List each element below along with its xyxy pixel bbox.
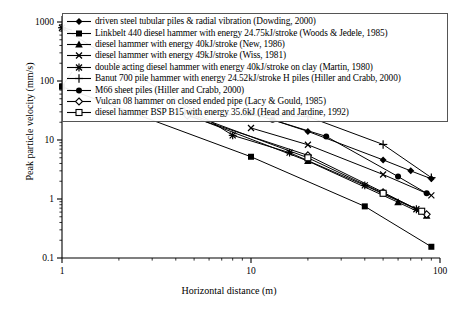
x-tick-label: 1: [60, 266, 65, 276]
legend-marker-star-icon: [65, 62, 95, 73]
legend-marker-plus-icon: [65, 73, 95, 84]
x-tick-label: 10: [246, 266, 256, 276]
legend-item: Banut 700 pile hammer with energy 24.52k…: [65, 73, 444, 84]
legend-marker-filled-diamond-icon: [65, 16, 95, 27]
legend-marker-filled-triangle-icon: [65, 39, 95, 50]
legend-item-label: diesel hammer BSP B15 with energy 35.6kJ…: [95, 107, 349, 118]
x-axis-label: Horizontal distance (m): [0, 285, 458, 296]
legend-marker-x-cross-icon: [65, 50, 95, 61]
legend-item: Vulcan 08 hammer on closed ended pipe (L…: [65, 96, 444, 107]
legend-item: diesel hammer with energy 40kJ/stroke (N…: [65, 39, 444, 50]
legend-item-label: driven steel tubular piles & radial vibr…: [95, 16, 316, 27]
legend-item-label: Banut 700 pile hammer with energy 24.52k…: [95, 73, 401, 84]
y-tick-label: 1: [49, 194, 54, 204]
legend-item-label: diesel hammer with energy 49kJ/stroke (W…: [95, 50, 286, 61]
series-line: [179, 108, 425, 214]
legend-item: diesel hammer BSP B15 with energy 35.6kJ…: [65, 107, 444, 118]
legend-marker-open-diamond-icon: [65, 96, 95, 107]
legend-item: driven steel tubular piles & radial vibr…: [65, 16, 444, 27]
legend-marker-filled-square-icon: [65, 28, 95, 39]
legend-item: diesel hammer with energy 49kJ/stroke (W…: [65, 50, 444, 61]
legend-marker-open-square-icon: [65, 107, 95, 118]
y-axis-label: Peak particle velocity (mm/s): [24, 47, 35, 197]
legend-item: Linkbelt 440 diesel hammer with energy 2…: [65, 27, 444, 38]
y-tick-label: 10: [45, 135, 55, 145]
legend-item-label: Vulcan 08 hammer on closed ended pipe (L…: [95, 96, 326, 107]
series-path: [180, 112, 427, 216]
y-tick-label: 0.1: [42, 253, 54, 263]
y-tick-label: 1000: [35, 17, 54, 27]
legend-item-label: diesel hammer with energy 40kJ/stroke (N…: [95, 39, 285, 50]
legend-item: double acting diesel hammer with energy …: [65, 62, 444, 73]
y-tick-label: 100: [40, 76, 55, 86]
legend-item-label: double acting diesel hammer with energy …: [95, 62, 373, 73]
chart-legend: driven steel tubular piles & radial vibr…: [62, 13, 448, 122]
x-tick-label: 100: [433, 266, 448, 276]
legend-marker-filled-circle-icon: [65, 85, 95, 96]
legend-item-label: M66 sheet piles (Hiller and Crabb, 2000): [95, 85, 244, 96]
series-path: [251, 128, 431, 195]
legend-item: M66 sheet piles (Hiller and Crabb, 2000): [65, 84, 444, 95]
legend-item-label: Linkbelt 440 diesel hammer with energy 2…: [95, 28, 388, 39]
chart-container: 0.11101001000110100 Peak particle veloci…: [0, 0, 458, 311]
series-line: [248, 125, 434, 198]
